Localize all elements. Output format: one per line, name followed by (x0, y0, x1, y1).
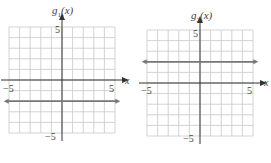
graph-g1-plot (0, 0, 135, 163)
line-arrow-left-icon (4, 99, 9, 104)
x-tick-label-left: −5 (3, 84, 14, 94)
x-tick-label-right: 5 (247, 86, 252, 96)
y-tick-label-top: 5 (193, 29, 198, 39)
y-tick-label-top: 5 (55, 25, 60, 35)
graph-g2-plot (138, 0, 271, 163)
title-argument: (x) (61, 4, 73, 16)
y-tick-label-bottom: −5 (45, 132, 56, 142)
x-axis-label: x (264, 78, 268, 88)
graph-g2: g2(x) 5 −5 −5 5 x (138, 0, 271, 163)
y-tick-label-bottom: −5 (183, 134, 194, 144)
title-argument: (x) (200, 9, 212, 21)
x-tick-label-left: −5 (141, 86, 152, 96)
graph-g1-title: g1(x) (52, 5, 73, 19)
x-axis-label: x (125, 76, 129, 86)
graph-g1: g1(x) 5 −5 −5 5 x (0, 0, 135, 163)
line-arrow-left-icon (142, 59, 147, 64)
x-tick-label-right: 5 (109, 84, 114, 94)
line-arrow-right-icon (253, 59, 258, 64)
line-arrow-right-icon (115, 99, 120, 104)
graph-g2-title: g2(x) (191, 10, 212, 24)
